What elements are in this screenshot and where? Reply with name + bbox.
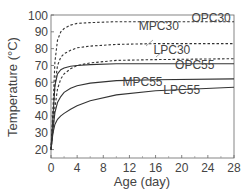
y-tick-label: 20 xyxy=(35,143,49,157)
x-axis-label: Age (day) xyxy=(114,174,170,189)
label-lpc55: LPC55 xyxy=(163,83,200,97)
x-tick-label: 20 xyxy=(175,161,189,175)
y-tick-label: 30 xyxy=(35,126,49,140)
temperature-age-chart: 2030405060708090100 0481216202428 OPC30M… xyxy=(0,0,252,195)
x-tick-label: 24 xyxy=(201,161,215,175)
y-axis: 2030405060708090100 xyxy=(28,9,54,158)
x-tick-label: 0 xyxy=(48,161,55,175)
series-lpc55 xyxy=(51,87,234,149)
y-axis-label: Temperature (°C) xyxy=(5,37,20,137)
label-mpc30: MPC30 xyxy=(139,19,179,33)
label-opc30: OPC30 xyxy=(191,11,231,25)
y-tick-label: 90 xyxy=(35,25,49,39)
series-lpc30 xyxy=(51,59,234,150)
x-tick-label: 16 xyxy=(149,161,163,175)
leader-mpc30 xyxy=(146,40,153,46)
x-tick-label: 4 xyxy=(74,161,81,175)
series-labels: OPC30MPC30LPC30OPC55MPC55LPC55 xyxy=(122,11,231,97)
x-tick-label: 12 xyxy=(123,161,137,175)
y-tick-label: 60 xyxy=(35,76,49,90)
x-tick-label: 28 xyxy=(227,161,241,175)
y-tick-label: 50 xyxy=(35,93,49,107)
label-mpc55: MPC55 xyxy=(122,75,162,89)
series-mpc55 xyxy=(51,79,234,150)
y-tick-label: 80 xyxy=(35,42,49,56)
x-tick-label: 8 xyxy=(100,161,107,175)
y-tick-label: 40 xyxy=(35,109,49,123)
y-tick-label: 70 xyxy=(35,59,49,73)
y-tick-label: 100 xyxy=(28,9,48,23)
label-opc55: OPC55 xyxy=(175,58,215,72)
